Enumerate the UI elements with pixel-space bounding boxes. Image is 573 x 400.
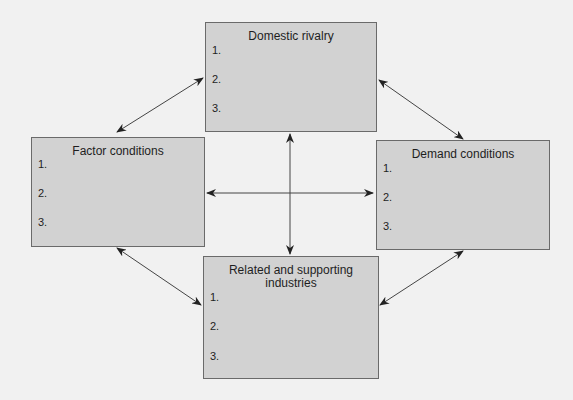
list-item: 3.: [210, 350, 219, 362]
factor-conditions-box: Factor conditions 1. 2. 3.: [31, 137, 205, 247]
box-title: Factor conditions: [32, 138, 204, 158]
list-item: 3.: [212, 102, 221, 114]
arrow-rivalry-demand: [379, 80, 463, 139]
list-item: 2.: [383, 191, 392, 203]
box-title: Demand conditions: [377, 141, 549, 161]
arrow-demand-related: [380, 251, 463, 305]
related-supporting-industries-box: Related and supporting industries 1. 2. …: [203, 256, 379, 379]
domestic-rivalry-box: Domestic rivalry 1. 2. 3.: [205, 22, 377, 132]
box-title: Domestic rivalry: [206, 23, 376, 43]
arrow-rivalry-factor: [117, 78, 203, 132]
list-item: 1.: [210, 291, 219, 303]
arrow-factor-related: [117, 248, 201, 305]
list-item: 3.: [38, 216, 47, 228]
box-title: Related and supporting industries: [204, 257, 378, 290]
demand-conditions-box: Demand conditions 1. 2. 3.: [376, 140, 550, 250]
list-item: 1.: [383, 162, 392, 174]
list-item: 1.: [212, 44, 221, 56]
list-item: 2.: [212, 73, 221, 85]
list-item: 1.: [38, 158, 47, 170]
list-item: 2.: [210, 320, 219, 332]
list-item: 3.: [383, 220, 392, 232]
list-item: 2.: [38, 187, 47, 199]
